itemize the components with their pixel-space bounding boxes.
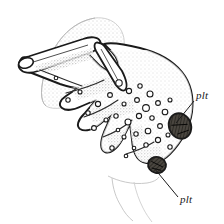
vacuole bbox=[162, 109, 168, 115]
vacuole bbox=[125, 119, 131, 125]
vacuole bbox=[156, 101, 161, 106]
scientific-illustration: pltplt bbox=[0, 0, 224, 224]
vacuole bbox=[116, 128, 120, 132]
vacuole bbox=[147, 91, 153, 97]
vacuole bbox=[143, 105, 150, 112]
vacuole bbox=[104, 118, 108, 122]
vacuole bbox=[92, 126, 97, 131]
vacuole bbox=[166, 133, 170, 137]
vacuole bbox=[124, 154, 128, 158]
vacuole bbox=[145, 128, 151, 134]
vacuole bbox=[95, 101, 100, 106]
vacuole bbox=[114, 114, 118, 118]
label-plt: plt bbox=[179, 193, 193, 205]
label-plt: plt bbox=[195, 89, 209, 101]
vacuole bbox=[54, 76, 58, 80]
ghost-skirt-group bbox=[108, 176, 159, 222]
vacuole bbox=[150, 116, 154, 120]
vacuole bbox=[78, 90, 82, 94]
vacuole bbox=[132, 146, 136, 150]
vacuole bbox=[168, 98, 172, 102]
vacuole bbox=[155, 137, 160, 142]
vacuole bbox=[108, 93, 113, 98]
vacuole bbox=[135, 98, 140, 103]
vacuole bbox=[158, 124, 163, 129]
vacuole bbox=[168, 145, 172, 149]
vacuole bbox=[134, 132, 138, 136]
ghost-skirt-tail-2 bbox=[134, 182, 152, 222]
vacuole bbox=[110, 146, 114, 150]
vacuole bbox=[144, 143, 148, 147]
vacuole bbox=[122, 135, 126, 139]
label-leader-line bbox=[154, 168, 178, 197]
vacuole bbox=[122, 102, 126, 106]
figure-container: pltplt bbox=[0, 0, 224, 224]
vacuole bbox=[138, 84, 142, 88]
vacuole bbox=[66, 98, 70, 102]
ghost-skirt-tail bbox=[112, 178, 133, 221]
vacuole bbox=[86, 111, 90, 115]
vacuole bbox=[136, 113, 141, 118]
vacuole bbox=[116, 80, 122, 86]
vacuole bbox=[126, 88, 131, 93]
ghost-skirt-outline bbox=[108, 176, 159, 184]
